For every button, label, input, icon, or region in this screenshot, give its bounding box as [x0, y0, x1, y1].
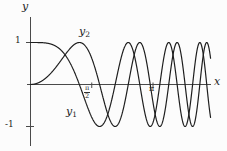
y-axis-label: y [22, 1, 28, 12]
function-plot-figure: y x 1 -1 π 2 π y1 y2 [0, 0, 227, 151]
y-tick-label-neg-1: -1 [5, 120, 14, 129]
curve-label-y1-subscript: 1 [72, 110, 77, 119]
pi-over-2-denominator: 2 [85, 93, 89, 100]
plot-canvas [0, 0, 227, 151]
x-tick-label-pi: π [149, 85, 154, 93]
x-tick-label-pi-over-2: π 2 [84, 85, 90, 100]
curve-label-y2-subscript: 2 [85, 30, 90, 39]
curve-label-y2: y2 [79, 26, 90, 39]
curve-label-y1: y1 [66, 106, 77, 119]
y-tick-label-1: 1 [15, 36, 21, 45]
x-axis-label: x [214, 76, 220, 87]
